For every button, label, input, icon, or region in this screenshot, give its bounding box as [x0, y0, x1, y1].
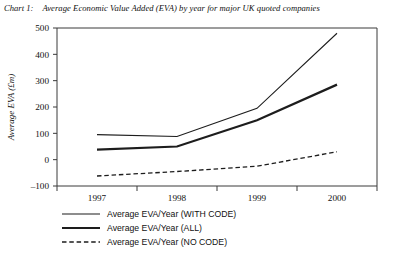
y-tick-label: –100	[30, 181, 50, 191]
legend-label: Average EVA/Year (NO CODE)	[107, 237, 227, 247]
eva-line-chart: –1000100200300400500 1997199819992000 Av…	[0, 0, 405, 258]
chart-legend: Average EVA/Year (WITH CODE)Average EVA/…	[62, 209, 236, 247]
series-line	[97, 85, 337, 150]
series-line	[97, 33, 337, 136]
y-tick-label: 0	[44, 155, 49, 165]
series-line	[97, 152, 337, 176]
y-tick-label: 400	[35, 50, 49, 60]
legend-label: Average EVA/Year (ALL)	[107, 223, 202, 233]
y-tick-label: 100	[35, 129, 49, 139]
x-axis-ticks: 1997199819992000	[57, 186, 377, 203]
y-tick-label: 200	[35, 102, 49, 112]
legend-label: Average EVA/Year (WITH CODE)	[107, 209, 236, 219]
y-tick-label: 500	[35, 23, 49, 33]
y-tick-label: 300	[35, 76, 49, 86]
y-axis-title: Average EVA (£m)	[6, 74, 16, 142]
x-tick-label: 1998	[168, 193, 187, 203]
series-group	[97, 33, 337, 176]
x-tick-label: 2000	[328, 193, 347, 203]
plot-frame	[57, 28, 377, 186]
y-axis-ticks: –1000100200300400500	[30, 23, 57, 191]
x-tick-label: 1997	[88, 193, 107, 203]
x-tick-label: 1999	[248, 193, 267, 203]
chart-figure: Chart 1: Average Economic Value Added (E…	[0, 0, 405, 258]
